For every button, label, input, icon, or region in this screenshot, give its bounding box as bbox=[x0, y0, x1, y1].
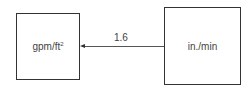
arrow-head-icon bbox=[80, 44, 85, 48]
box-label-gpm: gpm/ft2 bbox=[32, 41, 63, 52]
box-gpm-per-ft2: gpm/ft2 bbox=[16, 13, 80, 80]
box-in-per-min: in./min bbox=[164, 7, 241, 85]
conversion-arrow-line bbox=[82, 46, 164, 47]
box-label-in-min: in./min bbox=[188, 41, 217, 52]
conversion-factor-label: 1.6 bbox=[114, 32, 128, 43]
